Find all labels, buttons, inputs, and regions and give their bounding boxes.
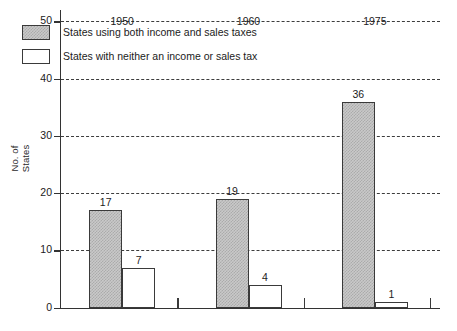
y-tick-mark bbox=[54, 193, 61, 194]
legend-label: States using both income and sales taxes bbox=[63, 26, 257, 38]
bar-chart: No. of States 01020304050 17719501941960… bbox=[0, 0, 457, 331]
legend-item: States using both income and sales taxes bbox=[22, 20, 257, 44]
y-tick-label: 10 bbox=[24, 243, 52, 255]
legend-item: States with neither an income or sales t… bbox=[22, 44, 257, 68]
bar-value-label: 4 bbox=[262, 271, 268, 283]
bar: 17 bbox=[89, 210, 122, 307]
bar: 19 bbox=[216, 199, 249, 308]
bar-value-label: 17 bbox=[100, 196, 112, 208]
y-tick-label: 30 bbox=[24, 129, 52, 141]
y-tick-label: 40 bbox=[24, 72, 52, 84]
bar-value-label: 19 bbox=[226, 185, 238, 197]
bar: 7 bbox=[122, 268, 155, 308]
x-tick-mark bbox=[430, 298, 431, 308]
x-tick-mark bbox=[304, 298, 305, 308]
legend-swatch bbox=[22, 25, 50, 40]
y-tick-mark bbox=[54, 136, 61, 137]
y-tick-label: 20 bbox=[24, 186, 52, 198]
y-tick-label: 0 bbox=[24, 301, 52, 313]
y-tick-mark bbox=[54, 79, 61, 80]
bar: 4 bbox=[249, 285, 282, 308]
legend-label: States with neither an income or sales t… bbox=[63, 50, 257, 62]
bar: 36 bbox=[342, 102, 375, 308]
legend: States using both income and sales taxes… bbox=[22, 20, 257, 68]
bar-value-label: 7 bbox=[136, 254, 142, 266]
bar-value-label: 1 bbox=[388, 288, 394, 300]
y-tick-row: 0 bbox=[0, 308, 457, 309]
y-tick-mark bbox=[54, 250, 61, 251]
bar: 1 bbox=[375, 302, 408, 308]
legend-swatch bbox=[22, 49, 50, 64]
x-category-label: 1975 bbox=[363, 15, 386, 27]
y-tick-mark bbox=[54, 308, 61, 309]
bar-value-label: 36 bbox=[352, 88, 364, 100]
x-tick-mark bbox=[177, 298, 178, 308]
